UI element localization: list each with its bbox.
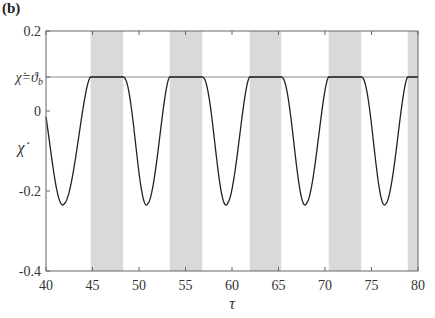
shaded-band	[91, 31, 124, 271]
x-tick-label: 70	[318, 278, 332, 293]
x-tick-label: 40	[39, 278, 53, 293]
line-chart: 404550556065707580 0.2χ̇=ϑb0-0.2-0.4 τχ̇	[0, 0, 435, 318]
x-tick-label: 75	[365, 278, 379, 293]
shaded-band	[329, 31, 362, 271]
y-tick-label: -0.2	[19, 184, 41, 199]
y-tick-label: -0.4	[19, 264, 41, 279]
x-tick-label: 80	[411, 278, 425, 293]
y-axis-label: χ̇	[15, 139, 29, 157]
x-tick-label: 60	[225, 278, 239, 293]
x-tick-label: 65	[272, 278, 286, 293]
y-tick-label: 0.2	[24, 24, 42, 39]
shaded-band	[250, 31, 282, 271]
x-tick-label: 55	[179, 278, 193, 293]
y-tick-label: 0	[34, 104, 41, 119]
shaded-band	[170, 31, 203, 271]
shaded-bands	[91, 31, 418, 271]
x-axis-label: τ	[229, 295, 236, 312]
x-tick-label: 50	[132, 278, 146, 293]
y-tick-label-reference: χ̇=ϑb	[14, 70, 43, 87]
x-tick-label: 45	[86, 278, 100, 293]
shaded-band	[408, 31, 418, 271]
